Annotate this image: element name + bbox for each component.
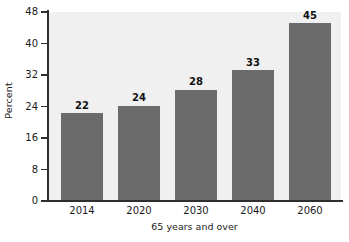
y-tick-label: 32 <box>25 70 38 80</box>
y-axis-title-label: Percent <box>3 82 14 118</box>
bar-chart-figure: Percent 48 40 32 24 16 8 0 22 2014 24 20… <box>0 0 349 242</box>
y-tick-mark <box>41 169 48 171</box>
y-tick-label: 24 <box>25 102 38 112</box>
y-tick-label: 16 <box>25 133 38 143</box>
y-tick-label: 0 <box>32 196 38 206</box>
x-tick-label-2060: 2060 <box>289 205 331 216</box>
bar-2060 <box>289 23 331 200</box>
x-tick-label-2020: 2020 <box>118 205 160 216</box>
bar-value-label: 22 <box>61 101 103 111</box>
x-tick-label-2014: 2014 <box>61 205 103 216</box>
bar-value-label: 24 <box>118 93 160 103</box>
bar-2030 <box>175 90 217 200</box>
y-tick-mark <box>41 137 48 139</box>
y-tick-mark <box>41 11 48 13</box>
x-tick-label-2040: 2040 <box>232 205 274 216</box>
bar-2020 <box>118 106 160 201</box>
y-tick-mark <box>41 74 48 76</box>
bar-value-label: 33 <box>232 58 274 68</box>
y-tick-label: 48 <box>25 7 38 17</box>
bar-value-label: 28 <box>175 77 217 87</box>
bar-value-label: 45 <box>289 11 331 21</box>
x-tick-label-2030: 2030 <box>175 205 217 216</box>
y-tick-mark <box>41 43 48 45</box>
bar-2040 <box>232 70 274 200</box>
y-tick-label: 8 <box>32 165 38 175</box>
bar-2014 <box>61 113 103 200</box>
x-axis-title: 65 years and over <box>48 221 341 232</box>
y-axis-title: Percent <box>0 0 16 200</box>
y-tick-mark <box>41 106 48 108</box>
x-axis-line <box>47 200 343 202</box>
y-tick-label: 40 <box>25 39 38 49</box>
y-tick-mark <box>41 200 48 202</box>
